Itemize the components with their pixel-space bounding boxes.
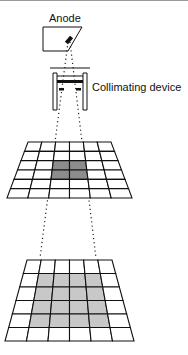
collimator-label: Collimating device <box>92 81 181 93</box>
grid-cell <box>87 170 107 179</box>
grid-cell <box>37 151 54 160</box>
shaded-cell <box>52 287 70 301</box>
shaded-cell <box>89 314 111 328</box>
shaded-cell <box>70 161 87 170</box>
shaded-cell <box>49 314 69 328</box>
grid-cell <box>98 260 116 274</box>
grid-cell <box>21 151 40 160</box>
grid-cell <box>27 328 50 342</box>
grid-cell <box>53 151 69 160</box>
shaded-cell <box>50 301 69 315</box>
grid-cell <box>30 179 51 188</box>
grid-cell <box>55 142 70 151</box>
grid-cell <box>48 328 70 342</box>
shaded-cell <box>85 274 103 288</box>
collimator-plate <box>57 80 83 83</box>
grid-cell <box>70 260 85 274</box>
grid-cell <box>25 142 42 151</box>
shaded-cell <box>31 301 51 315</box>
upper-detector-grid <box>7 142 132 198</box>
grid-cell <box>108 314 131 328</box>
grid-cell <box>88 179 109 188</box>
grid-cell <box>70 151 86 160</box>
shaded-cell <box>34 287 53 301</box>
shaded-cell <box>51 170 70 179</box>
anode: Anode <box>43 12 82 51</box>
grid-cell <box>70 179 90 188</box>
lower-detector-grid <box>5 260 134 341</box>
grid-cell <box>70 189 91 198</box>
grid-cell <box>70 328 92 342</box>
anode-label: Anode <box>49 12 81 24</box>
grid-cell <box>97 142 114 151</box>
grid-cell <box>86 161 105 170</box>
grid-cell <box>7 189 30 198</box>
grid-cell <box>85 151 102 160</box>
collimator-right-jaw <box>76 88 81 91</box>
grid-cell <box>49 189 70 198</box>
shaded-cell <box>70 314 90 328</box>
grid-cell <box>100 274 119 288</box>
grid-cell <box>90 328 113 342</box>
grid-cell <box>35 161 54 170</box>
shaded-cell <box>36 274 54 288</box>
grid-cell <box>102 161 122 170</box>
grid-cell <box>9 314 32 328</box>
shaded-cell <box>86 287 105 301</box>
grid-cell <box>11 179 33 188</box>
shaded-cell <box>70 287 88 301</box>
grid-cell <box>89 189 111 198</box>
grid-cell <box>5 328 29 342</box>
grid-cell <box>39 260 56 274</box>
shaded-cell <box>52 161 69 170</box>
xray-collimation-diagram: Anode Collimating device <box>0 0 188 355</box>
grid-cell <box>104 170 125 179</box>
grid-cell <box>50 179 70 188</box>
collimator-right-wall <box>83 73 87 110</box>
grid-cell <box>20 274 39 288</box>
grid-cell <box>107 179 129 188</box>
shaded-cell <box>70 170 89 179</box>
shaded-cell <box>70 274 87 288</box>
grid-cell <box>23 260 41 274</box>
shaded-cell <box>70 301 89 315</box>
focal-spot <box>65 36 73 45</box>
grid-cell <box>16 287 36 301</box>
grid-cell <box>14 170 35 179</box>
grid-cell <box>70 142 85 151</box>
grid-cell <box>103 287 123 301</box>
grid-cell <box>105 301 127 315</box>
grid-cell <box>18 161 38 170</box>
collimating-device: Collimating device <box>50 68 181 110</box>
grid-cell <box>54 260 69 274</box>
shaded-cell <box>87 301 107 315</box>
grid-cell <box>33 170 53 179</box>
anode-body <box>43 27 82 51</box>
grid-cell <box>28 189 50 198</box>
grid-cell <box>109 189 132 198</box>
grid-cell <box>12 301 34 315</box>
grid-cell <box>100 151 119 160</box>
grid-cell <box>110 328 134 342</box>
collimator-left-wall <box>53 73 57 110</box>
grid-cell <box>40 142 56 151</box>
shaded-cell <box>53 274 70 288</box>
shaded-cell <box>29 314 50 328</box>
